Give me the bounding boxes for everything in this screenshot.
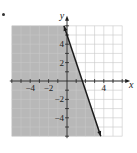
- inequality-graph: −4−2442−2−4xy: [0, 0, 137, 153]
- y-axis-arrow-icon: [65, 16, 69, 21]
- y-tick-label: −4: [54, 113, 64, 123]
- y-tick-label: 2: [60, 58, 65, 68]
- y-axis-label: y: [59, 10, 65, 21]
- x-axis-label: x: [128, 79, 134, 90]
- x-tick-label: −2: [44, 83, 54, 93]
- y-tick-label: 4: [60, 39, 65, 49]
- x-tick-label: −4: [25, 83, 35, 93]
- x-tick-label: 4: [102, 83, 107, 93]
- y-tick-label: −2: [54, 94, 64, 104]
